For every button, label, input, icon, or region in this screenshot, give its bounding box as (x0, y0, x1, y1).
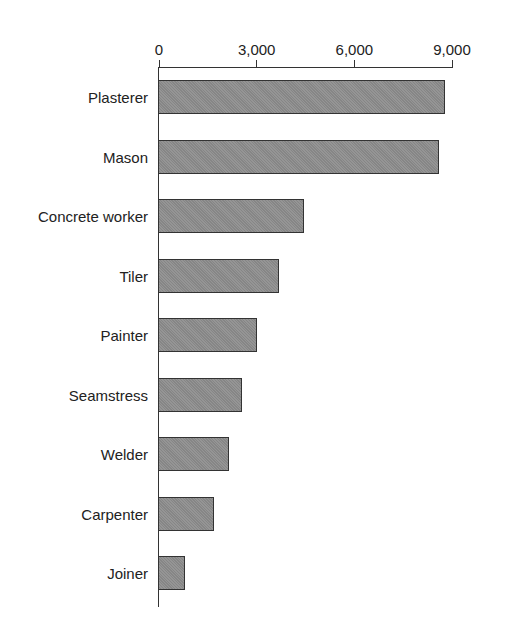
x-tick-mark (159, 60, 160, 68)
x-axis-line (159, 67, 452, 68)
bar (159, 199, 304, 233)
category-label: Concrete worker (38, 208, 148, 225)
category-label: Joiner (107, 565, 148, 582)
bar (159, 378, 242, 412)
bar (159, 80, 445, 114)
x-tick-label: 0 (155, 41, 163, 58)
category-label: Carpenter (81, 505, 148, 522)
category-label: Seamstress (69, 386, 148, 403)
bar (159, 497, 214, 531)
bar (159, 556, 185, 590)
category-label: Mason (103, 148, 148, 165)
x-tick-label: 6,000 (336, 41, 374, 58)
bar (159, 140, 439, 174)
bar (159, 318, 257, 352)
x-tick-label: 9,000 (433, 41, 471, 58)
category-label: Tiler (119, 267, 148, 284)
x-tick-label: 3,000 (238, 41, 276, 58)
bar (159, 437, 229, 471)
category-label: Painter (100, 327, 148, 344)
x-tick-mark (256, 60, 257, 68)
category-label: Plasterer (88, 89, 148, 106)
x-tick-mark (452, 60, 453, 68)
category-label: Welder (101, 446, 148, 463)
bar (159, 259, 279, 293)
bar-chart: 03,0006,0009,000 PlastererMasonConcrete … (0, 0, 510, 632)
x-tick-mark (354, 60, 355, 68)
